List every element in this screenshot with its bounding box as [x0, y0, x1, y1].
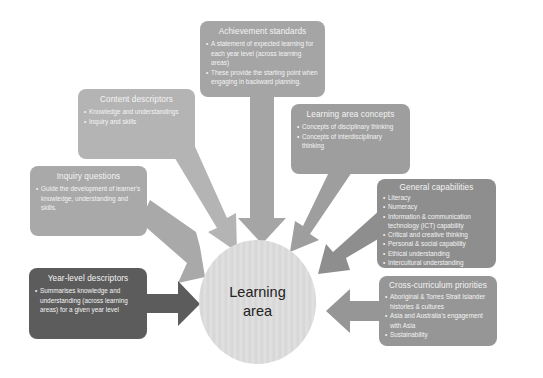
- list-item: Asia and Australia's engagement with Asi…: [385, 311, 491, 330]
- list-item: Literacy: [383, 193, 490, 202]
- bullet-list: Literacy Numeracy Information & communic…: [383, 193, 490, 267]
- list-item: Inquiry and skills: [84, 117, 189, 127]
- box-title: General capabilities: [383, 183, 490, 192]
- inquiry-questions-box: Inquiry questions Guide the development …: [30, 166, 147, 236]
- bullet-list: Guide the development of learner's knowl…: [36, 184, 141, 213]
- achievement-standards-box: Achievement standards A statement of exp…: [200, 21, 325, 97]
- content-descriptors-box: Content descriptors Knowledge and unders…: [78, 89, 195, 159]
- box-title: Achievement standards: [206, 27, 319, 36]
- list-item: Concepts of disciplinary thinking: [297, 122, 404, 132]
- list-item: Critical and creative thinking: [383, 230, 490, 239]
- list-item: A statement of expected learning for eac…: [206, 39, 319, 68]
- arrow-inquiry: [140, 200, 205, 283]
- box-title: Learning area concepts: [297, 110, 404, 119]
- center-label-line1: Learning: [229, 283, 285, 302]
- arrow-achievement: [238, 95, 286, 244]
- arrow-yearlevel: [145, 281, 200, 326]
- list-item: Numeracy: [383, 202, 490, 211]
- year-level-descriptors-box: Year-level descriptors Summarises knowle…: [29, 268, 147, 339]
- learning-area-circle: Learning area: [199, 240, 316, 364]
- learning-area-concepts-box: Learning area concepts Concepts of disci…: [291, 104, 410, 174]
- list-item: Sustainability: [385, 330, 491, 340]
- general-capabilities-box: General capabilities Literacy Numeracy I…: [377, 179, 496, 268]
- list-item: Information & communication technology (…: [383, 212, 490, 231]
- arrow-crosscurric: [326, 289, 382, 333]
- center-label-line2: area: [243, 302, 272, 321]
- box-title: Inquiry questions: [36, 172, 141, 181]
- arrow-concepts: [290, 170, 352, 252]
- list-item: Intercultural understanding: [383, 258, 490, 267]
- list-item: Summarises knowledge and understanding (…: [35, 286, 141, 315]
- bullet-list: Aboriginal & Torres Strait Islander hist…: [385, 292, 491, 340]
- list-item: Concepts of interdisciplinary thinking: [297, 132, 404, 151]
- bullet-list: Knowledge and understandings Inquiry and…: [84, 107, 189, 126]
- bullet-list: A statement of expected learning for eac…: [206, 39, 319, 87]
- list-item: Knowledge and understandings: [84, 107, 189, 117]
- list-item: Aboriginal & Torres Strait Islander hist…: [385, 292, 491, 311]
- bullet-list: Summarises knowledge and understanding (…: [35, 286, 141, 315]
- bullet-list: Concepts of disciplinary thinking Concep…: [297, 122, 404, 151]
- box-title: Content descriptors: [84, 95, 189, 104]
- box-title: Year-level descriptors: [35, 274, 141, 283]
- list-item: Personal & social capability: [383, 239, 490, 248]
- list-item: Guide the development of learner's knowl…: [36, 184, 141, 213]
- list-item: These provide the starting point when en…: [206, 68, 319, 87]
- list-item: Ethical understanding: [383, 249, 490, 258]
- cross-curriculum-priorities-box: Cross-curriculum priorities Aboriginal &…: [379, 276, 497, 346]
- box-title: Cross-curriculum priorities: [385, 281, 491, 290]
